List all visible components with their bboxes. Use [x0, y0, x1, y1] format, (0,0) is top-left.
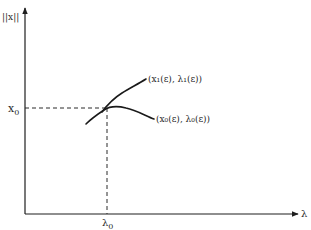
lambda0-label: λ0 — [102, 217, 113, 230]
y-axis-label: ||x|| — [2, 12, 19, 23]
bifurcation-diagram: ||x|| λ x0 λ0 (x₁(ε), λ₁(ε)) (x₀(ε), λ₀(… — [0, 0, 311, 230]
x-axis-label: λ — [301, 208, 308, 219]
x0-label: x0 — [8, 102, 19, 117]
lower-branch-curve — [86, 107, 154, 124]
lower-branch-label: (x₀(ε), λ₀(ε)) — [156, 114, 210, 124]
upper-branch-label: (x₁(ε), λ₁(ε)) — [148, 74, 202, 84]
